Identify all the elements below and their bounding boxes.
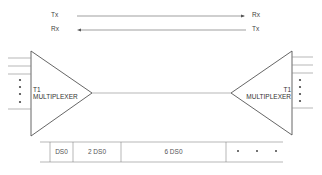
right-ellipsis-dots: [299, 79, 301, 102]
right-tx-label: Tx: [252, 26, 259, 33]
frame-cell-2ds0: 2 DS0: [73, 148, 121, 155]
rx-arrow: [77, 29, 246, 32]
left-rx-label: Rx: [51, 26, 59, 33]
tx-arrow: [77, 15, 245, 18]
frame-cell-6ds0: 6 DS0: [121, 148, 226, 155]
right-multiplexer-label: T1 MULTIPLEXER: [246, 86, 291, 101]
frame-cell-ds0: DS0: [50, 148, 73, 155]
left-ellipsis-dots: [19, 79, 21, 103]
left-multiplexer-label: T1 MULTIPLEXER: [33, 86, 78, 101]
right-output-lines: [292, 57, 313, 108]
right-rx-label: Rx: [252, 12, 260, 19]
frame-continuation-dots: [237, 150, 277, 152]
left-tx-label: Tx: [51, 12, 58, 19]
